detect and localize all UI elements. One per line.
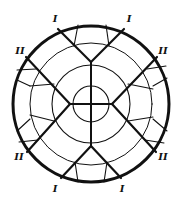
- diagram-canvas: I I II II II II I I: [0, 0, 181, 210]
- zone-label-upper-right: II: [158, 46, 167, 56]
- arm-right-lower: [112, 104, 156, 152]
- arm-bottom-left: [61, 146, 91, 178]
- arm-bottom-right: [91, 146, 121, 178]
- cross-section-drawing: [0, 0, 181, 210]
- segment-line: [30, 115, 54, 121]
- zone-label-upper-left: II: [15, 46, 24, 56]
- zone-label-bottom-left: I: [53, 184, 58, 194]
- arm-left-lower: [27, 104, 70, 152]
- arm-left-upper: [26, 57, 70, 104]
- segment-line: [147, 66, 166, 69]
- arm-right-upper: [112, 57, 157, 104]
- zone-label-top-right: I: [127, 14, 132, 24]
- segment-line: [17, 119, 30, 131]
- zone-label-lower-left: II: [14, 152, 23, 162]
- zone-label-bottom-right: I: [120, 184, 125, 194]
- zone-label-lower-right: II: [158, 152, 167, 162]
- segment-line: [17, 80, 30, 86]
- zone-label-top-left: I: [53, 14, 58, 24]
